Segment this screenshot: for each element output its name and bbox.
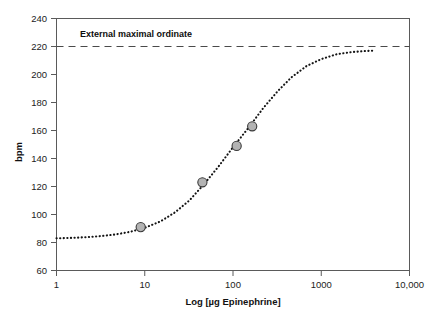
x-axis-title: Log [µg Epinephrine]	[185, 296, 280, 307]
y-tick-label-220: 220	[31, 41, 47, 52]
fitted-curve	[57, 51, 375, 239]
y-tick-label-60: 60	[36, 265, 47, 276]
y-axis-tick-labels: 240 220 200 180 160 140 120 100 80 60	[31, 13, 47, 276]
y-axis-ticks	[51, 19, 57, 271]
data-point-marker	[198, 178, 207, 187]
x-tick-label-1: 1	[54, 279, 59, 290]
x-tick-label-10000: 10,000	[395, 279, 424, 290]
y-tick-label-100: 100	[31, 209, 47, 220]
y-tick-label-240: 240	[31, 13, 47, 24]
dose-response-chart: 240 220 200 180 160 140 120 100 80 60 1 …	[0, 0, 438, 312]
y-tick-label-180: 180	[31, 97, 47, 108]
y-axis-title: bpm	[13, 142, 24, 162]
x-tick-label-10: 10	[139, 279, 150, 290]
y-tick-label-200: 200	[31, 69, 47, 80]
x-axis-ticks	[57, 271, 410, 277]
data-point-marker	[136, 223, 145, 232]
y-tick-label-120: 120	[31, 181, 47, 192]
external-maximal-ordinate-label: External maximal ordinate	[80, 29, 192, 39]
data-point-marker	[232, 141, 241, 150]
data-point-marker	[248, 122, 257, 131]
y-tick-label-80: 80	[36, 237, 47, 248]
x-tick-label-100: 100	[225, 279, 241, 290]
x-tick-label-1000: 1000	[311, 279, 332, 290]
chart-figure: 240 220 200 180 160 140 120 100 80 60 1 …	[0, 0, 438, 312]
x-axis-tick-labels: 1 10 100 1000 10,000	[54, 279, 424, 290]
y-tick-label-160: 160	[31, 125, 47, 136]
data-point-markers	[136, 122, 257, 232]
y-tick-label-140: 140	[31, 153, 47, 164]
